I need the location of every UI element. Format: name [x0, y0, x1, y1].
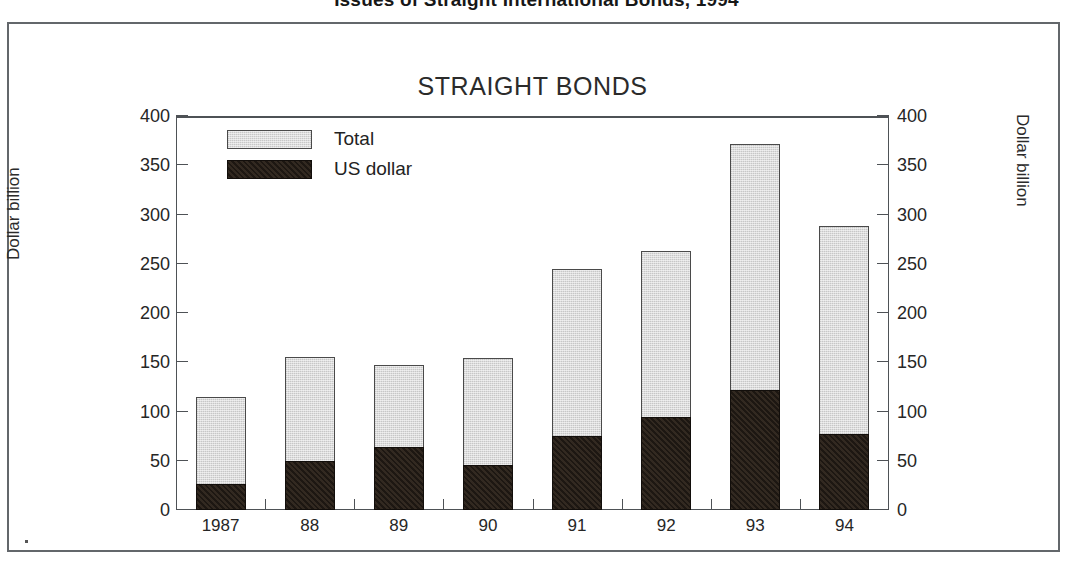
bar-segment-us-dollar: [285, 461, 335, 510]
y-tick-mark-left: [176, 411, 188, 412]
y-tick-label-right: 150: [897, 353, 953, 371]
y-tick-label-right: 350: [897, 156, 953, 174]
y-tick-label-left: 400: [114, 107, 170, 125]
x-axis-label: 90: [448, 516, 528, 536]
y-tick-label-right: 50: [897, 452, 953, 470]
y-tick-mark-left: [176, 263, 188, 264]
y-tick-label-left: 350: [114, 156, 170, 174]
bar-group: [463, 358, 513, 510]
bar-group: [552, 269, 602, 510]
y-tick-mark-left: [176, 361, 188, 362]
y-tick-label-left: 200: [114, 304, 170, 322]
bar-segment-us-dollar: [374, 447, 424, 510]
bar-group: [285, 357, 335, 510]
y-tick-label-right: 250: [897, 255, 953, 273]
y-tick-mark-right: [877, 361, 889, 362]
x-tick-mark: [265, 499, 266, 510]
bar-segment-us-dollar: [730, 390, 780, 510]
legend-item: US dollar: [227, 154, 412, 184]
x-axis-label: 1987: [181, 516, 261, 536]
y-axis-title-right: Dollar billion: [1012, 114, 1032, 207]
y-tick-label-right: 0: [897, 501, 953, 519]
y-tick-label-right: 200: [897, 304, 953, 322]
x-tick-mark: [711, 499, 712, 510]
page-title: Issues of Straight International Bonds, …: [0, 0, 1073, 11]
x-axis-label: 89: [359, 516, 439, 536]
y-tick-label-right: 300: [897, 206, 953, 224]
x-axis-label: 93: [715, 516, 795, 536]
x-tick-mark: [533, 499, 534, 510]
y-tick-label-left: 250: [114, 255, 170, 273]
y-tick-mark-right: [877, 164, 889, 165]
x-tick-mark: [800, 499, 801, 510]
bar-segment-us-dollar: [552, 436, 602, 510]
legend-swatch-us-dollar: [227, 160, 312, 179]
x-axis-label: 91: [537, 516, 617, 536]
y-axis-ticks-left: 050100150200250300350400: [114, 24, 170, 418]
legend-item: Total: [227, 124, 412, 154]
y-tick-label-left: 100: [114, 403, 170, 421]
screenshot-root: Issues of Straight International Bonds, …: [0, 0, 1073, 567]
page-speck: [25, 540, 28, 543]
y-tick-mark-right: [877, 115, 889, 116]
x-tick-mark: [354, 499, 355, 510]
x-axis-label: 92: [626, 516, 706, 536]
x-tick-mark: [443, 499, 444, 510]
y-tick-mark-left: [176, 164, 188, 165]
y-tick-mark-left: [176, 214, 188, 215]
y-tick-mark-right: [877, 263, 889, 264]
y-tick-mark-right: [877, 214, 889, 215]
figure-frame: STRAIGHT BONDS Dollar billion Dollar bil…: [7, 22, 1060, 552]
bar-group: [196, 397, 246, 510]
y-tick-mark-right: [877, 460, 889, 461]
bar-segment-us-dollar: [463, 465, 513, 510]
x-axis-label: 94: [804, 516, 884, 536]
legend-label: Total: [334, 128, 374, 150]
y-tick-mark-left: [176, 460, 188, 461]
bar-segment-us-dollar: [819, 434, 869, 510]
bar-group: [819, 226, 869, 510]
legend-swatch-total: [227, 130, 312, 149]
x-axis-label: 88: [270, 516, 350, 536]
y-tick-mark-left: [176, 312, 188, 313]
y-tick-mark-left: [176, 115, 188, 116]
bar-segment-us-dollar: [196, 484, 246, 510]
y-tick-label-right: 400: [897, 107, 953, 125]
y-axis-ticks-right: 050100150200250300350400: [897, 24, 953, 418]
chart-title: STRAIGHT BONDS: [176, 72, 889, 101]
y-tick-label-right: 100: [897, 403, 953, 421]
y-tick-label-left: 300: [114, 206, 170, 224]
bar-segment-us-dollar: [641, 417, 691, 510]
y-tick-label-left: 0: [114, 501, 170, 519]
y-tick-label-left: 150: [114, 353, 170, 371]
bar-group: [641, 251, 691, 510]
y-axis-title-left: Dollar billion: [4, 167, 24, 260]
x-tick-mark: [622, 499, 623, 510]
bar-group: [374, 365, 424, 510]
legend-label: US dollar: [334, 158, 412, 180]
y-tick-label-left: 50: [114, 452, 170, 470]
bar-group: [730, 144, 780, 510]
y-tick-mark-right: [877, 411, 889, 412]
chart-legend: TotalUS dollar: [227, 124, 412, 184]
y-tick-mark-right: [877, 312, 889, 313]
